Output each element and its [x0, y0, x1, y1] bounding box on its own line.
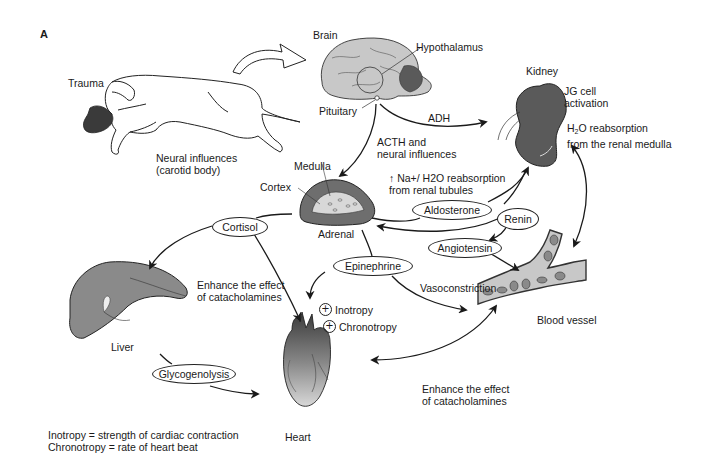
glycogenolysis-to-heart-arrow: [210, 386, 258, 394]
plus-inotropy-icon: +: [319, 303, 332, 316]
panel-label: A: [40, 28, 48, 40]
renin-to-adrenal-arrow: [378, 218, 500, 231]
vasoconstriction-label: Vasoconstriction: [420, 282, 496, 294]
aldosterone-node[interactable]: Aldosterone: [412, 200, 492, 220]
enhance-effect-left-label: Enhance the effect of catacholamines: [197, 279, 284, 303]
kidney-label: Kidney: [526, 65, 558, 77]
plus-chronotropy-icon: +: [323, 320, 336, 333]
acth-label: ACTH and neural influences: [377, 136, 456, 160]
brain-label: Brain: [313, 29, 338, 41]
dog-to-brain-arrow: [233, 44, 306, 74]
blood-vessel-label: Blood vessel: [537, 314, 597, 326]
enhance-effect-bottom-label: Enhance the effect of catacholamines: [422, 383, 509, 407]
chronotropy-label: Chronotropy: [339, 321, 397, 333]
adrenal-illustration: [298, 164, 375, 225]
liver-illustration: [70, 262, 188, 339]
glycogenolysis-node[interactable]: Glycogenolysis: [152, 364, 236, 384]
kidney-vessel-bidir-arrow: [572, 146, 587, 246]
kidney-to-renin-line: [504, 170, 526, 204]
adrenal-to-cortisol-line: [256, 214, 292, 218]
h2o-reabsorption-label: H2O reabsorptionfrom the renal medulla: [567, 122, 671, 150]
adrenal-to-epinephrine-line: [362, 230, 372, 256]
jg-cell-label: JG cell activation: [564, 85, 608, 109]
heart-label: Heart: [285, 431, 311, 443]
legend-inotropy: Inotropy = strength of cardiac contracti…: [48, 429, 239, 441]
epinephrine-node[interactable]: Epinephrine: [333, 256, 413, 276]
diagram-canvas: [0, 0, 713, 472]
liver-label: Liver: [111, 341, 134, 353]
cortex-label: Cortex: [260, 181, 291, 193]
heart-vessel-bidir-arrow: [372, 306, 496, 360]
cortisol-to-heart-arrow: [254, 234, 300, 320]
liver-to-glycogenolysis-line: [160, 354, 172, 364]
legend-chronotropy: Chronotropy = rate of heart beat: [48, 441, 198, 453]
medulla-label: Medulla: [294, 160, 331, 172]
dog-illustration: [105, 75, 300, 154]
kidney-illustration: [498, 84, 566, 167]
cortisol-node[interactable]: Cortisol: [212, 217, 268, 237]
adh-label: ADH: [428, 112, 450, 124]
cortisol-to-liver-arrow: [150, 226, 212, 268]
brain-illustration: [321, 38, 431, 108]
angiotensin-node[interactable]: Angiotensin: [428, 238, 502, 258]
pituitary-label: Pituitary: [319, 105, 357, 117]
renin-node[interactable]: Renin: [497, 208, 539, 230]
neural-influences-label: Neural influences (carotid body): [156, 152, 237, 176]
adrenal-to-aldosterone-line: [372, 218, 420, 221]
hypothalamus-label: Hypothalamus: [416, 41, 483, 53]
trauma-label: Trauma: [68, 77, 104, 89]
adrenal-label: Adrenal: [318, 228, 354, 240]
inotropy-label: Inotropy: [335, 304, 373, 316]
na-reabsorption-label: ↑ Na+/ H2O reabsorption from renal tubul…: [389, 172, 505, 196]
epinephrine-to-heart-arrow: [310, 272, 325, 298]
